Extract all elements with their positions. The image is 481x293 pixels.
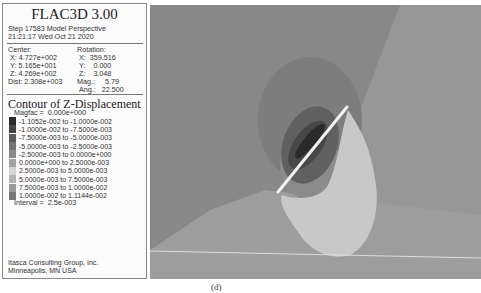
legend-swatch: [9, 175, 16, 183]
center-dist: Dist: 2.308e+003: [8, 78, 63, 86]
timestamp: 21:21:17 Wed Oct 21 2020: [8, 33, 94, 41]
contour-plot-svg: [150, 5, 481, 279]
legend-swatch: [9, 167, 16, 175]
legend-label: -2.5000e-003 to 0.0000e+000: [19, 151, 111, 158]
legend-swatch: [9, 125, 16, 133]
interval: Interval = 2.5e-003: [14, 199, 76, 207]
legend-label: 0.0000e+000 to 2.5000e-003: [19, 159, 109, 166]
legend-label: 7.5000e-003 to 1.0000e-002: [19, 184, 107, 191]
legend-row: -2.5000e-003 to 0.0000e+000: [9, 150, 111, 158]
company-location: Minneapolis, MN USA: [8, 267, 98, 275]
magfac: Magfac = 0.000e+000: [14, 109, 86, 117]
legend-row: -1.1052e-002 to -1.0000e-002: [9, 117, 112, 125]
rotation-ang: Ang.: 22.500: [79, 86, 124, 94]
app-title: FLAC3D 3.00: [3, 6, 146, 23]
legend-label: -7.5000e-003 to -5.0000e-003: [19, 134, 112, 141]
legend-label: -5.0000e-003 to -2.5000e-003: [19, 143, 112, 150]
divider: [7, 94, 143, 95]
legend-label: -1.0000e-002 to -7.5000e-003: [19, 126, 112, 133]
figure-caption: (d): [211, 282, 222, 292]
legend-row: 2.5000e-003 to 5.0000e-003: [9, 167, 107, 175]
legend-swatch: [9, 117, 16, 125]
legend-row: -7.5000e-003 to -5.0000e-003: [9, 134, 112, 142]
legend-row: 5.0000e-003 to 7.5000e-003: [9, 175, 107, 183]
legend-row: 0.0000e+000 to 2.5000e-003: [9, 159, 109, 167]
company-name: Itasca Consulting Group, Inc.: [8, 259, 98, 267]
legend-label: 5.0000e-003 to 7.5000e-003: [19, 176, 107, 183]
legend-swatch: [9, 134, 16, 142]
legend-swatch: [9, 142, 16, 150]
legend-swatch: [9, 150, 16, 158]
legend-label: 2.5000e-003 to 5.0000e-003: [19, 167, 107, 174]
legend-swatch: [9, 184, 16, 192]
legend-row: 7.5000e-003 to 1.0000e-002: [9, 183, 107, 191]
legend-panel: FLAC3D 3.00 Step 17583 Model Perspective…: [2, 3, 147, 279]
legend-label: -1.1052e-002 to -1.0000e-002: [19, 118, 112, 125]
footer: Itasca Consulting Group, Inc. Minneapoli…: [8, 259, 98, 275]
legend-swatch: [9, 159, 16, 167]
divider: [7, 43, 143, 44]
contour-plot: [150, 5, 481, 279]
legend-row: -5.0000e-003 to -2.5000e-003: [9, 142, 112, 150]
legend-row: -1.0000e-002 to -7.5000e-003: [9, 125, 112, 133]
